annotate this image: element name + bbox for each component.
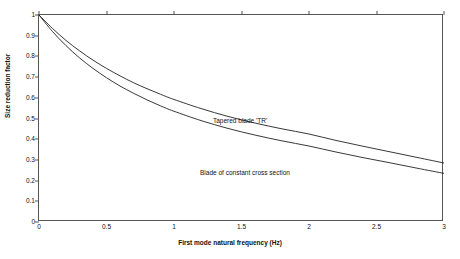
y-tick-label: 0 <box>31 219 35 226</box>
x-tick-label: 1.5 <box>237 224 246 231</box>
y-tick-mark <box>35 77 39 78</box>
x-tick-mark <box>39 11 40 15</box>
y-tick-mark <box>35 35 39 36</box>
y-axis-title: Size reduction factor <box>4 54 11 118</box>
y-tick-label: 0.2 <box>26 177 35 184</box>
y-tick-label: 0.5 <box>26 115 35 122</box>
x-axis-title: First mode natural frequency (Hz) <box>0 239 460 246</box>
x-tick-label: 3 <box>442 224 446 231</box>
x-tick-label: 0 <box>37 224 41 231</box>
y-tick-mark <box>35 139 39 140</box>
curve-label-tapered-blade: Tapered blade 'TR' <box>213 117 267 124</box>
x-tick-label: 2.5 <box>372 224 381 231</box>
y-tick-mark <box>35 159 39 160</box>
y-tick-label: 0.6 <box>26 95 35 102</box>
y-tick-mark <box>35 180 39 181</box>
x-tick-mark <box>106 11 107 15</box>
y-tick-mark <box>35 56 39 57</box>
chart-container: Size reduction factor 00.10.20.30.40.50.… <box>0 0 460 259</box>
x-tick-mark <box>309 11 310 15</box>
y-tick-label: 0.9 <box>26 32 35 39</box>
x-tick-mark <box>376 11 377 15</box>
x-tick-label: 2 <box>307 224 311 231</box>
x-tick-mark <box>444 11 445 15</box>
x-tick-label: 0.5 <box>102 224 111 231</box>
y-tick-mark <box>35 201 39 202</box>
x-tick-mark <box>174 11 175 15</box>
x-tick-label: 1 <box>172 224 176 231</box>
series-line-constant-cross-section <box>39 15 444 173</box>
y-tick-mark <box>35 118 39 119</box>
curve-label-constant-cross-section: Blade of constant cross section <box>200 169 290 176</box>
y-tick-label: 0.4 <box>26 136 35 143</box>
y-tick-label: 0.3 <box>26 157 35 164</box>
y-tick-mark <box>35 97 39 98</box>
x-tick-mark <box>241 11 242 15</box>
y-tick-label: 1 <box>31 12 35 19</box>
series-line-tapered-blade <box>39 15 444 163</box>
y-tick-label: 0.1 <box>26 198 35 205</box>
y-tick-label: 0.8 <box>26 53 35 60</box>
y-tick-label: 0.7 <box>26 74 35 81</box>
